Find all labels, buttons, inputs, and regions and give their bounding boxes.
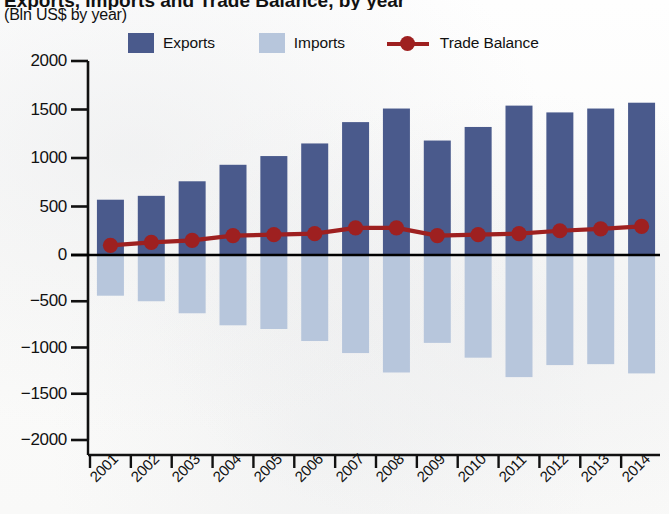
plot-area: 2000150010005000−500−1000−1500−2000 2001… xyxy=(0,0,669,514)
trade-balance-marker xyxy=(348,220,363,235)
bar-imports xyxy=(424,255,451,343)
bar-imports xyxy=(546,255,573,365)
trade-balance-marker xyxy=(634,219,649,234)
plot-canvas xyxy=(0,0,669,514)
y-axis-tick-label: 1000 xyxy=(3,148,67,168)
trade-balance-marker xyxy=(471,227,486,242)
bar-imports xyxy=(301,255,328,341)
bar-imports xyxy=(587,255,614,364)
trade-balance-marker xyxy=(430,228,445,243)
bar-imports xyxy=(220,255,247,325)
bar-imports xyxy=(383,255,410,372)
y-axis-tick-label: 0 xyxy=(3,245,67,265)
trade-balance-marker xyxy=(307,226,322,241)
trade-balance-marker xyxy=(225,228,240,243)
y-axis-tick-label: 2000 xyxy=(3,51,67,71)
y-axis-tick-label: −1000 xyxy=(3,338,67,358)
bar-imports xyxy=(628,255,655,373)
trade-balance-marker xyxy=(593,221,608,236)
y-axis-tick-label: 1500 xyxy=(3,100,67,120)
trade-balance-marker xyxy=(185,233,200,248)
trade-balance-marker xyxy=(511,226,526,241)
trade-balance-marker xyxy=(144,235,159,250)
bar-imports xyxy=(260,255,287,329)
y-axis-tick-label: −500 xyxy=(3,291,67,311)
bar-imports xyxy=(506,255,533,377)
bar-imports xyxy=(465,255,492,358)
chart-figure: Exports, Imports and Trade Balance, by y… xyxy=(0,0,669,514)
bar-imports xyxy=(179,255,206,313)
trade-balance-marker xyxy=(266,227,281,242)
y-axis-tick-label: −1500 xyxy=(3,384,67,404)
bar-imports xyxy=(97,255,124,296)
y-axis-tick-label: 500 xyxy=(3,197,67,217)
trade-balance-marker xyxy=(103,238,118,253)
bar-imports xyxy=(342,255,369,353)
trade-balance-marker xyxy=(389,220,404,235)
bar-imports xyxy=(138,255,165,301)
y-axis-tick-label: −2000 xyxy=(3,430,67,450)
trade-balance-marker xyxy=(552,223,567,238)
